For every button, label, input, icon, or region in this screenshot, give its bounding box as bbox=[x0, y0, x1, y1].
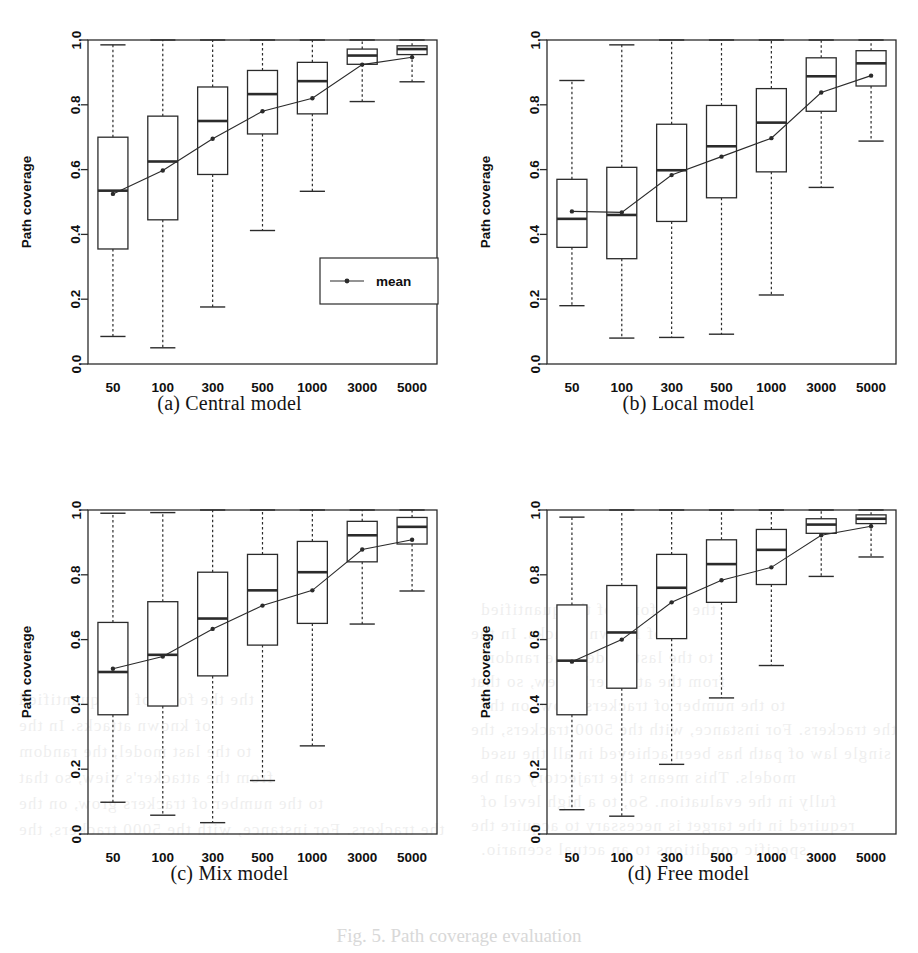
boxplot-box bbox=[98, 45, 128, 337]
y-tick-label: 0.0 bbox=[528, 825, 543, 844]
y-axis: 0.00.20.40.60.81.0 bbox=[69, 31, 89, 374]
y-axis-label: Path coverage bbox=[478, 625, 493, 718]
y-tick-label: 0.2 bbox=[69, 290, 84, 309]
legend-label-mean: mean bbox=[376, 274, 411, 289]
boxplot-box bbox=[248, 40, 278, 231]
boxplot-box bbox=[657, 510, 687, 764]
boxplot-box bbox=[98, 513, 128, 802]
boxplot-svg-a: 0.00.20.40.60.81.0Path coverage501003005… bbox=[0, 0, 459, 400]
y-tick-label: 0.8 bbox=[528, 565, 543, 584]
boxplot-box bbox=[707, 510, 737, 698]
legend: mean bbox=[320, 258, 438, 304]
boxplot-box bbox=[806, 40, 836, 187]
boxplot-box bbox=[557, 81, 587, 306]
plot-local-model: 0.00.20.40.60.81.0Path coverage501003005… bbox=[459, 0, 918, 400]
plot-mix-model: 0.00.20.40.60.81.0Path coverage501003005… bbox=[0, 470, 459, 870]
boxplot-box bbox=[148, 40, 178, 348]
plot-central-model: 0.00.20.40.60.81.0Path coverage501003005… bbox=[0, 0, 459, 400]
boxplot-box bbox=[198, 510, 228, 823]
y-axis: 0.00.20.40.60.81.0 bbox=[69, 501, 89, 844]
plot-free-model: 0.00.20.40.60.81.0Path coverage501003005… bbox=[459, 470, 918, 870]
y-tick-label: 0.6 bbox=[69, 160, 84, 179]
boxplot-box bbox=[347, 40, 377, 102]
y-tick-label: 0.8 bbox=[528, 95, 543, 114]
boxplot-box bbox=[707, 40, 737, 334]
boxplot-box bbox=[806, 510, 836, 576]
y-tick-label: 0.8 bbox=[69, 565, 84, 584]
boxplot-box bbox=[148, 513, 178, 816]
panel-caption-d: (d) Free model bbox=[459, 862, 918, 885]
boxplot-box bbox=[397, 510, 427, 591]
y-tick-label: 0.2 bbox=[528, 290, 543, 309]
figure-caption: Fig. 5. Path coverage evaluation bbox=[0, 925, 918, 947]
y-axis-label: Path coverage bbox=[19, 155, 34, 248]
y-tick-label: 1.0 bbox=[69, 31, 84, 50]
y-axis-label: Path coverage bbox=[19, 625, 34, 718]
y-tick-label: 1.0 bbox=[69, 501, 84, 520]
boxplot-box bbox=[856, 40, 886, 141]
y-tick-label: 1.0 bbox=[528, 31, 543, 50]
panel-caption-b: (b) Local model bbox=[459, 392, 918, 415]
y-tick-label: 0.2 bbox=[69, 760, 84, 779]
y-tick-label: 0.6 bbox=[69, 630, 84, 649]
y-tick-label: 0.4 bbox=[528, 695, 543, 714]
y-tick-label: 0.6 bbox=[528, 630, 543, 649]
y-tick-label: 0.0 bbox=[69, 825, 84, 844]
y-tick-label: 0.4 bbox=[69, 225, 84, 244]
boxplot-box bbox=[607, 510, 637, 816]
panel-mix-model: 0.00.20.40.60.81.0Path coverage501003005… bbox=[0, 470, 459, 940]
y-tick-label: 0.4 bbox=[69, 695, 84, 714]
y-tick-label: 0.6 bbox=[528, 160, 543, 179]
boxplot-box bbox=[198, 40, 228, 307]
boxplot-box bbox=[397, 40, 427, 82]
boxplot-svg-c: 0.00.20.40.60.81.0Path coverage501003005… bbox=[0, 470, 459, 870]
boxplot-box bbox=[657, 40, 687, 337]
y-tick-label: 0.0 bbox=[69, 355, 84, 374]
boxplot-svg-d: 0.00.20.40.60.81.0Path coverage501003005… bbox=[459, 470, 918, 870]
panel-free-model: 0.00.20.40.60.81.0Path coverage501003005… bbox=[459, 470, 918, 940]
y-tick-label: 0.0 bbox=[528, 355, 543, 374]
y-tick-label: 1.0 bbox=[528, 501, 543, 520]
boxplot-box bbox=[297, 510, 327, 746]
figure-path-coverage: 0.00.20.40.60.81.0Path coverage501003005… bbox=[0, 0, 918, 953]
boxplot-box bbox=[756, 510, 786, 666]
boxplot-box bbox=[856, 510, 886, 557]
panel-caption-c: (c) Mix model bbox=[0, 862, 459, 885]
boxplot-box bbox=[756, 40, 786, 295]
panel-caption-a: (a) Central model bbox=[0, 392, 459, 415]
y-tick-label: 0.2 bbox=[528, 760, 543, 779]
panel-local-model: 0.00.20.40.60.81.0Path coverage501003005… bbox=[459, 0, 918, 470]
panel-central-model: 0.00.20.40.60.81.0Path coverage501003005… bbox=[0, 0, 459, 470]
y-axis: 0.00.20.40.60.81.0 bbox=[528, 31, 548, 374]
boxplot-box bbox=[607, 45, 637, 338]
y-tick-label: 0.4 bbox=[528, 225, 543, 244]
y-tick-label: 0.8 bbox=[69, 95, 84, 114]
y-axis-label: Path coverage bbox=[478, 155, 493, 248]
boxplot-svg-b: 0.00.20.40.60.81.0Path coverage501003005… bbox=[459, 0, 918, 400]
boxplot-box bbox=[248, 510, 278, 781]
y-axis: 0.00.20.40.60.81.0 bbox=[528, 501, 548, 844]
boxplot-box bbox=[347, 510, 377, 624]
boxplot-box bbox=[297, 40, 327, 191]
